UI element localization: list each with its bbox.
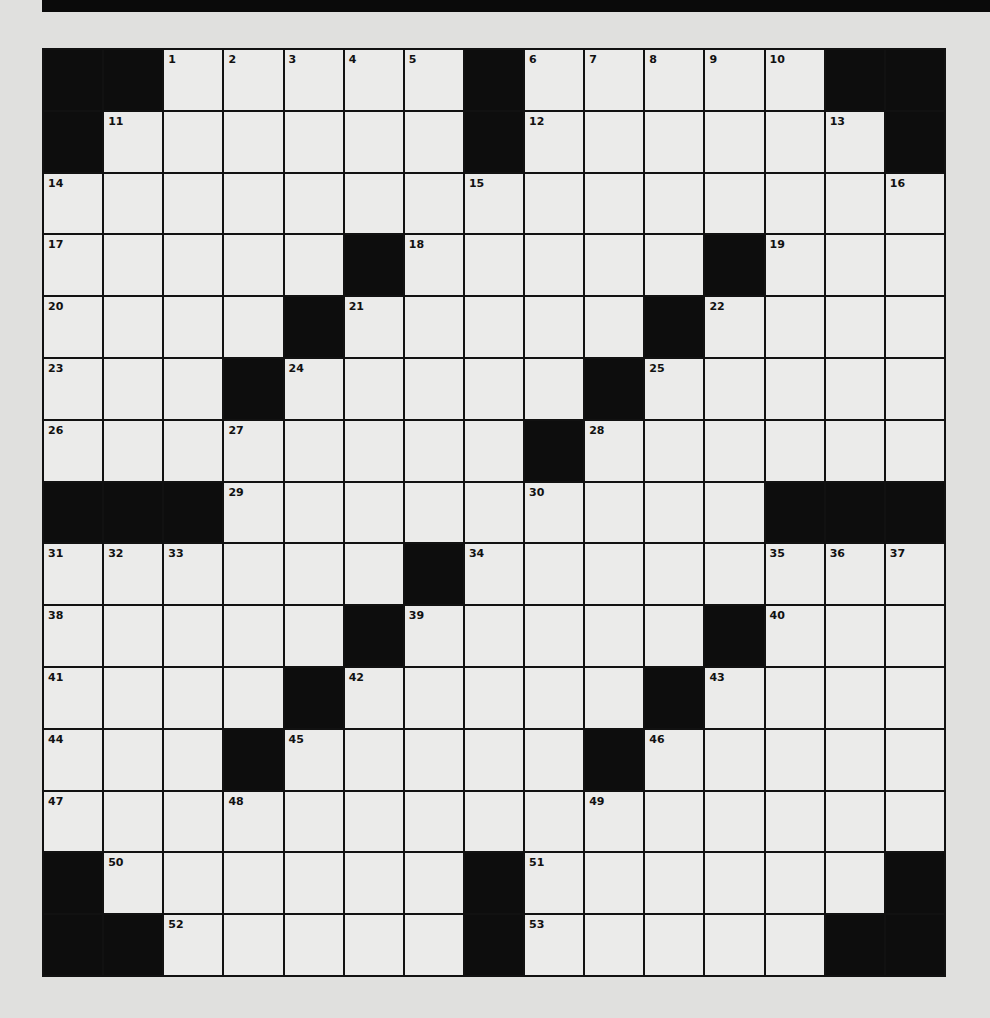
grid-cell[interactable]: 51 xyxy=(525,853,583,913)
grid-cell[interactable] xyxy=(285,606,343,666)
grid-cell[interactable]: 26 xyxy=(44,421,102,481)
grid-cell[interactable] xyxy=(525,792,583,852)
grid-cell[interactable] xyxy=(465,297,523,357)
grid-cell[interactable] xyxy=(585,235,643,295)
grid-cell[interactable] xyxy=(766,174,824,234)
grid-cell[interactable]: 18 xyxy=(405,235,463,295)
grid-cell[interactable]: 34 xyxy=(465,544,523,604)
grid-cell[interactable]: 6 xyxy=(525,50,583,110)
grid-cell[interactable]: 5 xyxy=(405,50,463,110)
grid-cell[interactable] xyxy=(525,730,583,790)
grid-cell[interactable]: 38 xyxy=(44,606,102,666)
grid-cell[interactable]: 47 xyxy=(44,792,102,852)
grid-cell[interactable] xyxy=(886,668,944,728)
grid-cell[interactable] xyxy=(886,235,944,295)
grid-cell[interactable] xyxy=(826,730,884,790)
grid-cell[interactable] xyxy=(224,174,282,234)
grid-cell[interactable] xyxy=(465,421,523,481)
grid-cell[interactable]: 28 xyxy=(585,421,643,481)
grid-cell[interactable] xyxy=(645,235,703,295)
grid-cell[interactable] xyxy=(164,792,222,852)
grid-cell[interactable] xyxy=(164,297,222,357)
grid-cell[interactable] xyxy=(104,730,162,790)
grid-cell[interactable] xyxy=(525,174,583,234)
grid-cell[interactable]: 25 xyxy=(645,359,703,419)
grid-cell[interactable] xyxy=(525,544,583,604)
grid-cell[interactable] xyxy=(826,174,884,234)
grid-cell[interactable] xyxy=(886,297,944,357)
grid-cell[interactable] xyxy=(405,853,463,913)
grid-cell[interactable] xyxy=(645,544,703,604)
grid-cell[interactable] xyxy=(766,112,824,172)
grid-cell[interactable] xyxy=(645,174,703,234)
grid-cell[interactable]: 19 xyxy=(766,235,824,295)
grid-cell[interactable] xyxy=(585,483,643,543)
grid-cell[interactable] xyxy=(645,792,703,852)
grid-cell[interactable]: 13 xyxy=(826,112,884,172)
grid-cell[interactable]: 17 xyxy=(44,235,102,295)
grid-cell[interactable] xyxy=(886,730,944,790)
grid-cell[interactable]: 8 xyxy=(645,50,703,110)
grid-cell[interactable]: 40 xyxy=(766,606,824,666)
grid-cell[interactable] xyxy=(826,853,884,913)
grid-cell[interactable] xyxy=(645,606,703,666)
grid-cell[interactable] xyxy=(705,544,763,604)
grid-cell[interactable] xyxy=(465,359,523,419)
grid-cell[interactable] xyxy=(886,606,944,666)
grid-cell[interactable] xyxy=(705,730,763,790)
grid-cell[interactable] xyxy=(224,235,282,295)
grid-cell[interactable] xyxy=(465,730,523,790)
grid-cell[interactable] xyxy=(104,235,162,295)
grid-cell[interactable]: 11 xyxy=(104,112,162,172)
grid-cell[interactable]: 45 xyxy=(285,730,343,790)
grid-cell[interactable]: 32 xyxy=(104,544,162,604)
grid-cell[interactable] xyxy=(826,606,884,666)
grid-cell[interactable] xyxy=(345,112,403,172)
grid-cell[interactable] xyxy=(886,359,944,419)
grid-cell[interactable] xyxy=(886,792,944,852)
grid-cell[interactable] xyxy=(826,359,884,419)
grid-cell[interactable] xyxy=(405,421,463,481)
grid-cell[interactable] xyxy=(465,668,523,728)
grid-cell[interactable] xyxy=(405,730,463,790)
grid-cell[interactable]: 29 xyxy=(224,483,282,543)
grid-cell[interactable] xyxy=(465,235,523,295)
grid-cell[interactable] xyxy=(104,668,162,728)
grid-cell[interactable] xyxy=(224,606,282,666)
grid-cell[interactable]: 30 xyxy=(525,483,583,543)
grid-cell[interactable] xyxy=(224,668,282,728)
grid-cell[interactable] xyxy=(645,421,703,481)
grid-cell[interactable] xyxy=(705,174,763,234)
grid-cell[interactable] xyxy=(405,174,463,234)
grid-cell[interactable] xyxy=(345,730,403,790)
grid-cell[interactable]: 1 xyxy=(164,50,222,110)
grid-cell[interactable] xyxy=(465,606,523,666)
grid-cell[interactable]: 27 xyxy=(224,421,282,481)
grid-cell[interactable] xyxy=(465,483,523,543)
grid-cell[interactable] xyxy=(405,359,463,419)
grid-cell[interactable] xyxy=(345,421,403,481)
grid-cell[interactable]: 53 xyxy=(525,915,583,975)
grid-cell[interactable]: 15 xyxy=(465,174,523,234)
grid-cell[interactable] xyxy=(645,853,703,913)
grid-cell[interactable] xyxy=(285,915,343,975)
grid-cell[interactable]: 35 xyxy=(766,544,824,604)
grid-cell[interactable] xyxy=(766,359,824,419)
grid-cell[interactable] xyxy=(585,112,643,172)
grid-cell[interactable] xyxy=(405,792,463,852)
grid-cell[interactable] xyxy=(766,792,824,852)
grid-cell[interactable]: 42 xyxy=(345,668,403,728)
grid-cell[interactable] xyxy=(766,853,824,913)
grid-cell[interactable] xyxy=(705,421,763,481)
grid-cell[interactable] xyxy=(405,915,463,975)
grid-cell[interactable] xyxy=(826,235,884,295)
grid-cell[interactable] xyxy=(585,606,643,666)
grid-cell[interactable]: 20 xyxy=(44,297,102,357)
grid-cell[interactable] xyxy=(766,421,824,481)
grid-cell[interactable] xyxy=(164,235,222,295)
grid-cell[interactable]: 48 xyxy=(224,792,282,852)
grid-cell[interactable] xyxy=(285,235,343,295)
grid-cell[interactable] xyxy=(525,606,583,666)
grid-cell[interactable]: 33 xyxy=(164,544,222,604)
grid-cell[interactable] xyxy=(886,421,944,481)
